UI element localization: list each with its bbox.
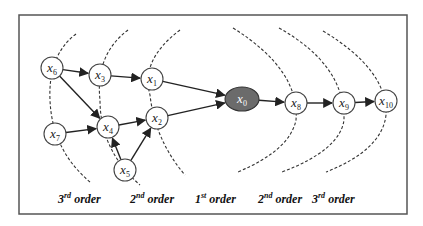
edge-x2-x0 (168, 103, 225, 116)
order-label: 3rd order (57, 191, 101, 206)
node-x5: x5 (114, 159, 136, 181)
order-label: 1st order (195, 191, 236, 206)
edge-x3-x1 (111, 76, 140, 78)
edge-x1-x0 (163, 81, 225, 95)
node-x0: x0 (225, 87, 259, 111)
node-x4: x4 (97, 116, 119, 138)
node-x8: x8 (285, 92, 307, 114)
edge-x9-x10 (355, 102, 374, 103)
arc-left-1st (148, 30, 185, 175)
arc-left-3rd (50, 34, 90, 182)
edge-x4-x2 (119, 120, 145, 125)
node-x7: x7 (44, 123, 66, 145)
order-label: 2nd order (257, 191, 302, 206)
order-label: 3rd order (311, 191, 355, 206)
node-x9: x9 (333, 92, 355, 114)
edge-x5-x4 (112, 138, 121, 160)
edge-x0-x8 (259, 100, 284, 102)
node-x6: x6 (41, 57, 63, 79)
order-labels: 3rd order2nd order1st order2nd order3rd … (57, 191, 355, 206)
node-x2: x2 (146, 107, 168, 129)
node-x10: x10 (375, 90, 397, 112)
diagram-frame (19, 15, 407, 214)
edge-x7-x4 (66, 129, 96, 133)
edge-x6-x3 (63, 70, 88, 74)
edge-x5-x2 (131, 128, 151, 160)
graph-diagram: x6x3x1x0x8x9x10x7x4x2x5 3rd order2nd ord… (0, 0, 423, 226)
node-x1: x1 (141, 68, 163, 90)
order-label: 2nd order (129, 191, 174, 206)
node-x3: x3 (89, 64, 111, 86)
